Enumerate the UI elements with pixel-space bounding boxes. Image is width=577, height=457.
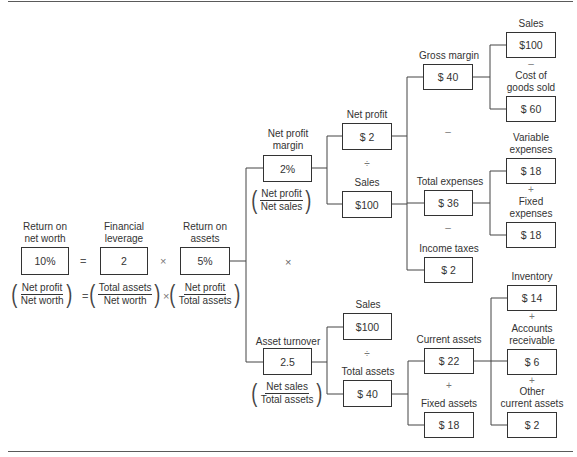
plus-sign-3: +: [526, 311, 538, 322]
current-assets-value: $ 22: [439, 355, 459, 367]
divide-sign-1: ÷: [361, 158, 373, 169]
plus-sign-2: +: [525, 184, 537, 195]
sales-box-b: $100: [343, 313, 392, 340]
total-expenses-label: Total expenses: [410, 176, 490, 188]
fixed-assets-value: $ 18: [439, 419, 459, 431]
formula-total-assets-over-net-worth: ( Total assetsNet worth ): [88, 281, 162, 307]
net-profit-box: $ 2: [342, 123, 392, 150]
asset-turnover-box: 2.5: [263, 348, 312, 375]
total-assets-value: $ 40: [357, 388, 377, 400]
plus-sign-1: +: [443, 380, 455, 391]
minus-sign-1: –: [442, 126, 454, 137]
net-profit-label: Net profit: [338, 109, 396, 121]
inventory-box: $ 14: [507, 285, 557, 311]
multiply-sign-level1: ×: [285, 256, 291, 268]
total-expenses-box: $ 36: [424, 190, 473, 216]
formula-net-profit-over-net-worth: ( Net profitNet worth ): [10, 281, 74, 307]
net-profit-margin-value: 2%: [280, 163, 295, 175]
gross-margin-label: Gross margin: [414, 50, 484, 62]
minus-sign-3: –: [525, 58, 537, 69]
other-current-assets-value: $ 2: [525, 419, 540, 431]
return-on-net-worth-value: 10%: [34, 255, 55, 267]
return-on-assets-label: Return on assets: [174, 221, 236, 245]
fixed-expenses-box: $ 18: [506, 222, 556, 248]
variable-expenses-label: Variable expenses: [498, 132, 564, 156]
equals-sign: =: [80, 255, 86, 267]
formula-net-profit-over-total-assets: ( Net profitTotal assets ): [168, 281, 242, 307]
gross-margin-box: $ 40: [423, 64, 473, 90]
cogs-label: Cost of goods sold: [498, 70, 564, 94]
fixed-assets-label: Fixed assets: [414, 398, 484, 410]
return-on-net-worth-box: 10%: [21, 247, 69, 275]
sales-box-c: $100: [506, 32, 556, 58]
divide-sign-2: ÷: [361, 348, 373, 359]
income-taxes-label: Income taxes: [414, 243, 484, 255]
return-on-assets-value: 5%: [197, 255, 212, 267]
sales-box-a: $100: [342, 191, 392, 218]
variable-expenses-value: $ 18: [521, 165, 541, 177]
total-expenses-value: $ 36: [438, 197, 458, 209]
fixed-expenses-value: $ 18: [521, 229, 541, 241]
return-on-net-worth-label: Return on net worth: [14, 221, 76, 245]
sales-label-b: Sales: [343, 299, 393, 311]
cogs-value: $ 60: [521, 103, 541, 115]
sales-value-c: $100: [519, 39, 542, 51]
gross-margin-value: $ 40: [438, 71, 458, 83]
current-assets-box: $ 22: [424, 348, 474, 374]
multiply-sign: ×: [160, 255, 166, 267]
other-current-assets-label: Other current assets: [494, 386, 570, 410]
income-taxes-value: $ 2: [441, 264, 456, 276]
formula-net-sales-over-total-assets: ( Net salesTotal assets ): [250, 380, 324, 406]
sales-value-a: $100: [355, 199, 378, 211]
asset-turnover-label: Asset turnover: [252, 336, 324, 348]
other-current-assets-box: $ 2: [507, 412, 557, 438]
variable-expenses-box: $ 18: [506, 158, 556, 184]
formula-net-profit-over-net-sales: ( Net profitNet sales ): [250, 187, 313, 213]
plus-sign-4: +: [526, 375, 538, 386]
current-assets-label: Current assets: [412, 334, 486, 346]
sales-label-a: Sales: [342, 177, 392, 189]
net-profit-margin-label: Net profit margin: [257, 128, 319, 152]
fixed-assets-box: $ 18: [424, 412, 474, 438]
net-profit-value: $ 2: [360, 131, 375, 143]
accounts-receivable-box: $ 6: [507, 349, 557, 375]
total-assets-box: $ 40: [343, 380, 392, 407]
net-profit-margin-box: 2%: [263, 155, 312, 182]
sales-label-c: Sales: [506, 18, 556, 30]
financial-leverage-box: 2: [100, 247, 148, 275]
fixed-expenses-label: Fixed expenses: [498, 196, 564, 220]
financial-leverage-value: 2: [121, 255, 127, 267]
total-assets-label: Total assets: [333, 366, 403, 378]
accounts-receivable-label: Accounts receivable: [499, 323, 565, 347]
cogs-box: $ 60: [506, 96, 556, 122]
asset-turnover-value: 2.5: [280, 356, 295, 368]
accounts-receivable-value: $ 6: [525, 356, 540, 368]
inventory-label: Inventory: [505, 271, 559, 283]
sales-value-b: $100: [356, 321, 379, 333]
return-on-assets-box: 5%: [180, 247, 230, 275]
financial-leverage-label: Financial leverage: [92, 221, 156, 245]
minus-sign-2: –: [442, 222, 454, 233]
inventory-value: $ 14: [522, 292, 542, 304]
income-taxes-box: $ 2: [424, 257, 473, 283]
